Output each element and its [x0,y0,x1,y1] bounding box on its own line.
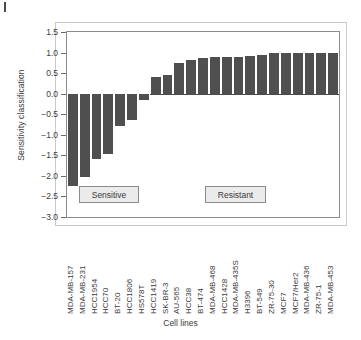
bar [79,94,91,177]
x-axis-tick-label: HCC1806 [126,279,134,314]
chart-figure: Sensitivity classification 1.51.00.50.0−… [0,0,361,340]
x-axis-tick-label: MCF7/Her2 [292,273,300,314]
x-axis-tick-label: BT-20 [114,293,122,314]
x-axis-tick-label: MCF7 [280,292,288,314]
bar [114,94,126,126]
x-axis-tick-label: HCC1428 [221,279,229,314]
y-axis-tick-label: −2.5 [41,191,58,201]
bar [292,53,304,94]
x-axis-tick-label: HCC1419 [150,279,158,314]
y-axis-tick-label: 0.5 [46,68,58,78]
y-axis-tick-label: −0.5 [41,109,58,119]
bar [268,53,280,94]
bar [185,60,197,94]
x-axis-tick-label: HCC1954 [91,279,99,314]
x-axis-tick-label: ZR-75-30 [268,280,276,314]
x-axis-tick-label: SK-BR-3 [162,282,170,314]
plot-frame: Sensitive Resistant [66,31,340,218]
x-axis-tick-label: BT-549 [256,288,264,314]
bar [233,57,245,94]
bar [162,75,174,94]
bar [150,77,162,94]
bar [327,53,339,94]
bar [173,63,185,93]
x-axis-tick-label: HCC38 [185,288,193,314]
x-axis-tick-label: HS578T [138,285,146,314]
y-axis-tick-label: 1.5 [46,27,58,37]
annotation-resistant: Resistant [205,186,265,203]
y-axis-tick-label: −3.0 [41,212,58,222]
x-axis-tick-labels: MDA-MB-157MDA-MB-231HCC1954HCC70BT-20HCC… [66,228,340,314]
bar [91,94,103,160]
bar [244,56,256,94]
x-axis-tick-label: MDA-MB-436 [303,266,311,314]
y-axis-tick-label: 1.0 [46,48,58,58]
x-axis-tick-label: HCC70 [102,288,110,314]
x-axis-tick-label: BT-474 [197,288,205,314]
bar [315,53,327,94]
x-axis-tick-label: AU-565 [173,287,181,314]
y-axis-tick-label: −2.0 [41,171,58,181]
x-axis-tick-label: MDA-MB-468 [209,266,217,314]
x-axis-tick-label: MDA-MB-453 [327,266,335,314]
bar [280,53,292,94]
x-axis-tick-label: MDA-MB-435S [232,260,240,314]
bar [304,53,316,94]
annotation-sensitive: Sensitive [79,186,139,203]
bar [256,55,268,94]
y-axis-tick-label: −1.0 [41,130,58,140]
y-axis-tick-label: 0.0 [46,89,58,99]
bar [221,57,233,94]
bar [67,94,79,187]
bar [126,94,138,120]
x-axis-tick-label: MDA-MB-231 [79,266,87,314]
x-axis-tick-label: MDA-MB-157 [67,266,75,314]
y-axis: 1.51.00.50.0−0.5−1.0−1.5−2.0−2.5−3.0 [0,0,66,340]
x-axis-tick-label: H3396 [244,290,252,314]
x-axis-tick-label: ZR-75-1 [315,285,323,314]
x-axis-title: Cell lines [0,318,361,328]
plot-area: Sensitive Resistant [67,32,339,217]
bar [102,94,114,154]
bar [197,58,209,93]
bar [138,94,150,100]
y-axis-tick-label: −1.5 [41,150,58,160]
bar [209,57,221,93]
